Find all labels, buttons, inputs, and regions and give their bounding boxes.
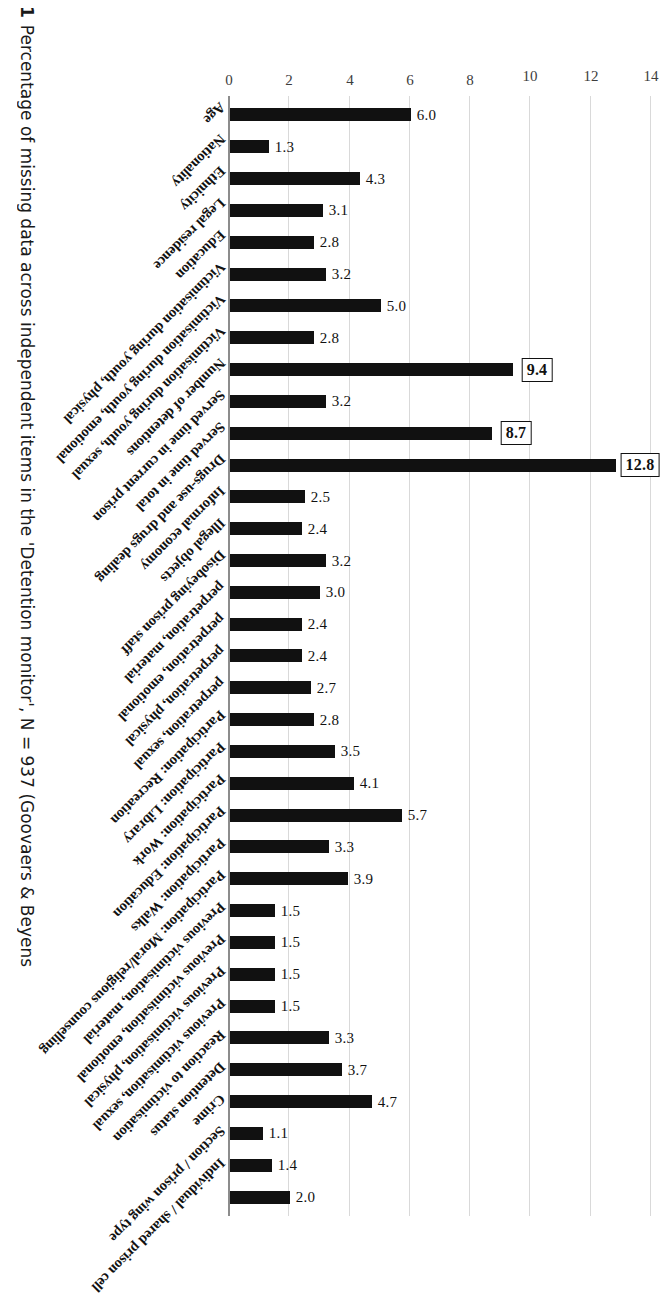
bar-value-label: 3.0: [326, 585, 345, 600]
bar-item[interactable]: 2.5: [230, 481, 651, 513]
bar-item[interactable]: 3.9: [230, 863, 651, 895]
bar[interactable]: [230, 777, 354, 790]
bar-item[interactable]: 3.7: [230, 1054, 651, 1086]
bar[interactable]: [230, 1031, 329, 1044]
bar[interactable]: [230, 1063, 342, 1076]
y-axis-tick: 2: [281, 77, 298, 85]
bar-item[interactable]: 4.3: [230, 163, 651, 195]
bar-item[interactable]: 1.5: [230, 895, 651, 927]
bar[interactable]: [230, 1000, 275, 1013]
bar-value-label: 3.5: [341, 744, 360, 759]
bar-value-label: 2.4: [308, 617, 327, 632]
bar[interactable]: [230, 872, 348, 885]
y-axis-tick-label: 12: [583, 68, 598, 85]
bar-item[interactable]: 3.5: [230, 736, 651, 768]
bar[interactable]: [230, 554, 326, 567]
bar[interactable]: [230, 427, 492, 440]
bar[interactable]: [230, 968, 275, 981]
bar-value-label: 3.9: [353, 871, 372, 886]
bar-item[interactable]: 3.2: [230, 385, 651, 417]
y-axis-tick: 4: [341, 77, 358, 85]
bar-item[interactable]: 2.4: [230, 608, 651, 640]
bar-item[interactable]: 3.3: [230, 1022, 651, 1054]
bar-item[interactable]: 3.2: [230, 258, 651, 290]
bar-item[interactable]: 4.1: [230, 767, 651, 799]
y-axis-tick-label: 4: [346, 72, 354, 89]
bar-item[interactable]: 1.5: [230, 958, 651, 990]
bar-item[interactable]: 6.0: [230, 99, 651, 131]
bar-item[interactable]: 3.0: [230, 576, 651, 608]
bar[interactable]: [230, 236, 314, 249]
bar-item[interactable]: 12.8: [230, 449, 651, 481]
bar-value-label: 2.7: [317, 680, 336, 695]
bar[interactable]: [230, 809, 402, 822]
y-axis-tick-label: 2: [286, 72, 294, 89]
bar[interactable]: [230, 268, 326, 281]
bar-item[interactable]: 2.8: [230, 704, 651, 736]
bar-item[interactable]: 2.8: [230, 322, 651, 354]
bar-item[interactable]: 1.5: [230, 990, 651, 1022]
bar-item[interactable]: 3.2: [230, 545, 651, 577]
bar[interactable]: [230, 681, 311, 694]
bar-value-label: 3.3: [335, 1030, 354, 1045]
caption-number: 1: [17, 6, 37, 18]
bar[interactable]: [230, 649, 302, 662]
bar-value-label: 1.4: [278, 1158, 297, 1173]
bar[interactable]: [230, 1095, 372, 1108]
bar-value-label: 3.2: [332, 267, 351, 282]
bar-item[interactable]: 9.4: [230, 354, 651, 386]
bar[interactable]: [230, 1159, 272, 1172]
bar[interactable]: [230, 713, 314, 726]
bar[interactable]: [230, 363, 513, 376]
bar-item[interactable]: 1.5: [230, 927, 651, 959]
bar-item[interactable]: 1.3: [230, 131, 651, 163]
y-axis-tick-label: 0: [225, 72, 233, 89]
bar[interactable]: [230, 745, 336, 758]
bar[interactable]: [230, 1127, 263, 1140]
bar-item[interactable]: 8.7: [230, 417, 651, 449]
bar-item[interactable]: 1.4: [230, 1149, 651, 1181]
bar-value-label: 2.5: [311, 489, 330, 504]
bar[interactable]: [230, 840, 329, 853]
bar-value-label: 2.8: [320, 235, 339, 250]
bar[interactable]: [230, 522, 302, 535]
bar-item[interactable]: 2.4: [230, 513, 651, 545]
bar[interactable]: [230, 1191, 290, 1204]
bar-value-label: 1.5: [281, 967, 300, 982]
bar-item[interactable]: 3.3: [230, 831, 651, 863]
bar[interactable]: [230, 395, 326, 408]
bar-item[interactable]: 5.0: [230, 290, 651, 322]
bar-item[interactable]: 2.0: [230, 1181, 651, 1213]
bar[interactable]: [230, 172, 360, 185]
bar-item[interactable]: 2.7: [230, 672, 651, 704]
bar-item[interactable]: 2.4: [230, 640, 651, 672]
bar[interactable]: [230, 331, 314, 344]
y-axis-tick: 12: [582, 69, 599, 84]
y-axis-tick: 14: [643, 69, 660, 84]
y-axis: 02468101214: [229, 40, 651, 92]
bar[interactable]: [230, 204, 323, 217]
bar[interactable]: [230, 490, 305, 503]
y-axis-tick-label: 6: [406, 72, 414, 89]
bar[interactable]: [230, 586, 320, 599]
bar[interactable]: [230, 299, 381, 312]
bar-item[interactable]: 2.8: [230, 226, 651, 258]
bar-value-label: 2.4: [308, 521, 327, 536]
bar[interactable]: [230, 140, 269, 153]
category-label: Individual / shared prison cell: [89, 1156, 228, 1295]
bar-value-label: 3.2: [332, 553, 351, 568]
bar[interactable]: [230, 936, 275, 949]
bar-value-label: 3.1: [329, 203, 348, 218]
bar-item[interactable]: 1.1: [230, 1118, 651, 1150]
bar[interactable]: [230, 459, 616, 472]
bar[interactable]: [230, 618, 302, 631]
bar-value-label: 6.0: [417, 107, 436, 122]
bar-item[interactable]: 5.7: [230, 799, 651, 831]
bar-item[interactable]: 4.7: [230, 1086, 651, 1118]
bar[interactable]: [230, 904, 275, 917]
figure-caption: 1Percentage of missing data across indep…: [17, 6, 37, 1249]
bar-value-label: 1.5: [281, 935, 300, 950]
bar[interactable]: [230, 108, 411, 121]
bar-item[interactable]: 3.1: [230, 194, 651, 226]
